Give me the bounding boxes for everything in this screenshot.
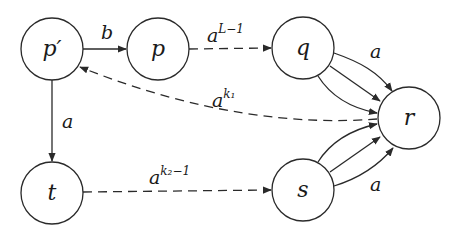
node-label-q: q [296, 35, 310, 60]
edge-q-to-r-1 [334, 53, 392, 91]
edge-label-a-k2-1: ak₂−1 [149, 164, 190, 188]
node-label-t: t [48, 180, 57, 205]
node-q: q [272, 17, 334, 79]
edge-t-to-s [83, 190, 271, 192]
edge-s-to-r-1 [318, 124, 377, 162]
automaton-diagram: b aL−1 a ak₁ ak₂−1 a a p′ p q r t s [0, 0, 457, 238]
edge-label-a-L-1: aL−1 [207, 22, 244, 46]
node-label-s: s [297, 177, 308, 202]
node-t: t [21, 162, 83, 224]
node-p: p [127, 18, 189, 80]
edge-label-a-k1: ak₁ [212, 87, 235, 111]
node-p-prime: p′ [21, 18, 83, 80]
edge-label-a-pprime-t: a [62, 110, 73, 132]
edge-label-b: b [101, 21, 113, 43]
edge-label-a-s-r: a [370, 173, 381, 195]
edge-label-a-q-r: a [370, 40, 381, 62]
edge-s-to-r-3 [334, 148, 393, 186]
edge-q-to-r-3 [318, 76, 377, 113]
node-label-r: r [404, 105, 416, 130]
edge-p-to-q [189, 48, 271, 49]
node-s: s [272, 159, 334, 221]
node-label-p-prime: p′ [42, 36, 61, 61]
node-r: r [378, 87, 440, 149]
node-label-p: p [151, 36, 165, 61]
